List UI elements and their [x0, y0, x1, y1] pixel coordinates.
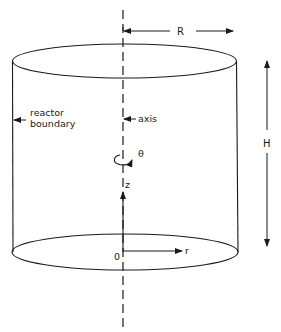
- right-wall: [237, 62, 239, 252]
- bottom-ellipse: [12, 234, 238, 270]
- radius-dimension: R: [123, 26, 233, 37]
- origin-label: 0: [114, 251, 120, 262]
- top-ellipse: [13, 44, 237, 78]
- theta-rotation-icon: θ: [114, 148, 144, 165]
- axis-annotation: axis: [124, 113, 157, 124]
- reactor-boundary-label-line1: reactor: [30, 107, 64, 118]
- theta-label: θ: [138, 148, 144, 159]
- z-label: z: [125, 179, 130, 190]
- height-label: H: [263, 138, 271, 149]
- height-dimension: H: [263, 61, 271, 246]
- z-axis-arrow: z: [123, 179, 130, 252]
- radius-label: R: [177, 26, 184, 37]
- left-wall: [13, 62, 14, 252]
- reactor-boundary-label-line2: boundary: [30, 118, 76, 129]
- reactor-cylinder-diagram: R H reactor boundary axis θ z r 0: [0, 0, 281, 332]
- r-axis-arrow: r: [123, 245, 189, 256]
- r-label: r: [185, 245, 189, 256]
- reactor-boundary-annotation: reactor boundary: [14, 107, 76, 129]
- axis-label: axis: [138, 113, 157, 124]
